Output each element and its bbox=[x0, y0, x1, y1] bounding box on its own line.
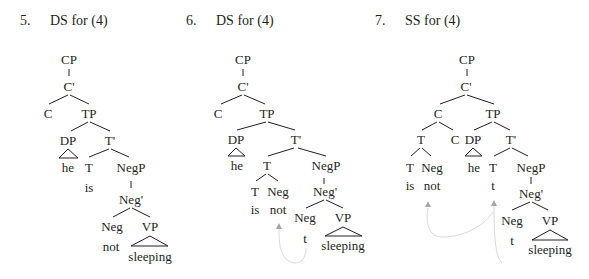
triangle-icon bbox=[228, 148, 245, 156]
movement-arrow-t bbox=[427, 208, 493, 237]
tree-7: CP C' C T T is Neg not C TP DP he T' T t… bbox=[406, 52, 572, 263]
leaf-is: is bbox=[406, 178, 415, 193]
arrowhead-icon bbox=[425, 201, 431, 207]
syntax-trees: CP C' C TP DP he T' T is NegP Neg' Neg n… bbox=[0, 0, 589, 279]
node-cp: CP bbox=[61, 52, 77, 67]
triangle-icon bbox=[465, 148, 482, 156]
node-t: T bbox=[85, 160, 93, 175]
node-tp: TP bbox=[485, 106, 500, 121]
leaf-sleeping: sleeping bbox=[528, 242, 572, 257]
tree-6: CP C' C TP DP he T' T T is Neg not NegP … bbox=[214, 52, 365, 263]
node-neg-adjoined: Neg bbox=[421, 160, 443, 175]
node-tbar: T' bbox=[291, 132, 301, 147]
leaf-neg-trace: t bbox=[510, 233, 514, 248]
node-cbar: C' bbox=[237, 79, 248, 94]
leaf-is: is bbox=[251, 202, 260, 217]
node-t-top: T bbox=[263, 158, 271, 173]
node-neg: Neg bbox=[501, 213, 523, 228]
node-t: T bbox=[251, 184, 259, 199]
node-negp: NegP bbox=[517, 160, 546, 175]
leaf-sleeping: sleeping bbox=[321, 238, 365, 253]
movement-arrow bbox=[279, 228, 306, 263]
node-t-trace: T bbox=[489, 160, 497, 175]
node-dp: DP bbox=[465, 132, 482, 147]
node-cbar: C' bbox=[63, 79, 74, 94]
node-neg-adjoined: Neg bbox=[267, 184, 289, 199]
node-neg: Neg bbox=[294, 210, 316, 225]
arrowhead-icon bbox=[276, 223, 282, 229]
node-t: T bbox=[406, 160, 414, 175]
leaf-is: is bbox=[85, 180, 94, 195]
triangle-icon bbox=[131, 236, 168, 246]
node-tp: TP bbox=[259, 106, 274, 121]
node-c-top: C bbox=[434, 106, 443, 121]
node-negbar: Neg' bbox=[119, 192, 143, 207]
leaf-he: he bbox=[231, 158, 244, 173]
leaf-trace: t bbox=[303, 231, 307, 246]
node-neg: Neg bbox=[101, 219, 123, 234]
leaf-not: not bbox=[270, 202, 287, 217]
node-cbar: C' bbox=[460, 79, 471, 94]
node-negp: NegP bbox=[312, 158, 341, 173]
node-c: C bbox=[451, 132, 460, 147]
node-tbar: T' bbox=[105, 133, 115, 148]
node-dp: DP bbox=[228, 132, 245, 147]
node-vp: VP bbox=[542, 213, 559, 228]
arrowhead-icon bbox=[491, 200, 497, 206]
node-cp: CP bbox=[235, 52, 251, 67]
node-negbar: Neg' bbox=[313, 184, 337, 199]
leaf-t-trace: t bbox=[491, 178, 495, 193]
node-cp: CP bbox=[459, 52, 475, 67]
node-c: C bbox=[44, 106, 53, 121]
leaf-he: he bbox=[468, 160, 481, 175]
node-t-top: T bbox=[417, 132, 425, 147]
triangle-icon bbox=[59, 149, 78, 158]
leaf-not: not bbox=[424, 178, 441, 193]
leaf-sleeping: sleeping bbox=[128, 249, 172, 264]
node-dp: DP bbox=[60, 133, 77, 148]
node-negbar: Neg' bbox=[519, 186, 543, 201]
triangle-icon bbox=[325, 227, 362, 236]
node-negp: NegP bbox=[117, 160, 146, 175]
node-tbar: T' bbox=[506, 132, 516, 147]
node-tp: TP bbox=[81, 106, 96, 121]
tree-5: CP C' C TP DP he T' T is NegP Neg' Neg n… bbox=[44, 52, 172, 264]
leaf-he: he bbox=[62, 160, 75, 175]
node-vp: VP bbox=[142, 219, 159, 234]
leaf-not: not bbox=[103, 239, 120, 254]
triangle-icon bbox=[532, 230, 568, 240]
node-c: C bbox=[214, 106, 223, 121]
node-vp: VP bbox=[335, 210, 352, 225]
